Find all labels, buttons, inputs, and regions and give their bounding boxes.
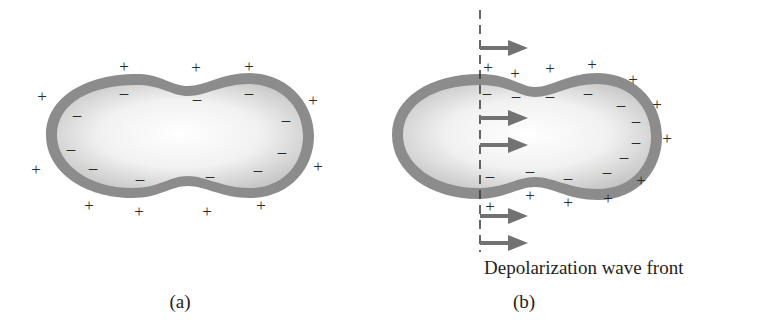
svg-text:–: – bbox=[72, 105, 82, 124]
svg-text:–: – bbox=[88, 158, 98, 177]
svg-text:–: – bbox=[485, 166, 495, 185]
svg-text:+: + bbox=[628, 70, 638, 89]
svg-text:–: – bbox=[616, 95, 626, 114]
svg-text:–: – bbox=[135, 169, 145, 188]
svg-text:+: + bbox=[485, 197, 495, 216]
svg-text:+: + bbox=[134, 202, 144, 221]
svg-text:+: + bbox=[37, 87, 47, 106]
svg-text:–: – bbox=[602, 162, 612, 181]
svg-text:–: – bbox=[119, 83, 129, 102]
svg-text:+: + bbox=[652, 95, 662, 114]
depolarization-diagram: + + + + + + + + + + + – – – – – – – – – … bbox=[0, 0, 761, 330]
panel-b: + + + + + + + + + + + + – – – – – – – – … bbox=[392, 10, 684, 313]
svg-text:+: + bbox=[545, 59, 555, 78]
svg-text:–: – bbox=[631, 132, 641, 151]
svg-text:–: – bbox=[244, 83, 254, 102]
svg-text:+: + bbox=[563, 193, 573, 212]
svg-text:–: – bbox=[192, 89, 202, 108]
svg-text:–: – bbox=[545, 86, 555, 105]
arrow-right-icon bbox=[480, 235, 528, 251]
svg-text:+: + bbox=[636, 171, 646, 190]
svg-text:+: + bbox=[256, 196, 266, 215]
svg-text:+: + bbox=[191, 58, 201, 77]
svg-text:+: + bbox=[483, 58, 493, 77]
svg-text:+: + bbox=[202, 202, 212, 221]
svg-text:–: – bbox=[205, 166, 215, 185]
svg-text:+: + bbox=[119, 57, 129, 76]
svg-text:+: + bbox=[587, 55, 597, 74]
svg-text:+: + bbox=[308, 91, 318, 110]
svg-text:–: – bbox=[619, 147, 629, 166]
svg-text:+: + bbox=[525, 186, 535, 205]
svg-text:–: – bbox=[277, 142, 287, 161]
svg-text:–: – bbox=[525, 161, 535, 180]
svg-text:–: – bbox=[511, 86, 521, 105]
svg-text:+: + bbox=[31, 160, 41, 179]
wave-front-caption: Depolarization wave front bbox=[484, 257, 684, 278]
svg-text:–: – bbox=[281, 110, 291, 129]
svg-text:–: – bbox=[66, 139, 76, 158]
svg-text:+: + bbox=[313, 157, 323, 176]
panel-label-a: (a) bbox=[169, 291, 190, 313]
svg-text:–: – bbox=[563, 168, 573, 187]
arrow-right-icon bbox=[480, 40, 528, 56]
svg-text:+: + bbox=[510, 64, 520, 83]
svg-text:–: – bbox=[583, 83, 593, 102]
svg-text:+: + bbox=[603, 189, 613, 208]
panel-label-b: (b) bbox=[513, 291, 535, 313]
svg-text:–: – bbox=[253, 160, 263, 179]
svg-text:–: – bbox=[631, 111, 641, 130]
svg-text:+: + bbox=[662, 129, 672, 148]
panel-a: + + + + + + + + + + + – – – – – – – – – … bbox=[31, 57, 323, 313]
svg-text:–: – bbox=[482, 83, 492, 102]
svg-text:+: + bbox=[84, 196, 94, 215]
svg-text:+: + bbox=[244, 57, 254, 76]
